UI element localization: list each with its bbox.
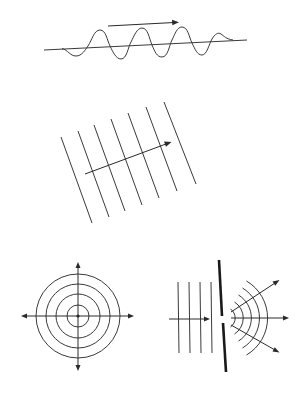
arrowhead-icon bbox=[172, 20, 179, 26]
incident-wavefront bbox=[200, 282, 201, 353]
wavefront-line bbox=[61, 137, 92, 223]
single-slit-diffraction-panel bbox=[169, 260, 289, 372]
sine-wave bbox=[62, 27, 233, 59]
propagation-arrow bbox=[85, 144, 166, 174]
wavefront-line bbox=[78, 131, 109, 217]
arrowhead-up-icon bbox=[76, 262, 81, 268]
arrowhead-icon bbox=[283, 316, 289, 321]
wave-axis-line bbox=[44, 40, 247, 50]
arrowhead-icon bbox=[164, 142, 172, 147]
wave-diagram bbox=[0, 0, 304, 396]
spherical-wavefronts-panel bbox=[21, 262, 134, 371]
barrier-upper bbox=[219, 260, 222, 316]
wavefront-line bbox=[94, 125, 125, 211]
transverse-wave-panel bbox=[44, 20, 247, 59]
arrowhead-icon bbox=[273, 347, 280, 352]
wavefront-line bbox=[111, 119, 142, 205]
incident-wavefront bbox=[178, 282, 179, 353]
arrowhead-icon bbox=[273, 280, 280, 286]
incident-wavefront bbox=[211, 282, 212, 353]
arrowhead-right-icon bbox=[128, 314, 134, 319]
diffracted-arrow-down bbox=[231, 325, 275, 350]
diffracted-arrow-up bbox=[231, 283, 275, 312]
arrowhead-down-icon bbox=[76, 365, 81, 371]
arrowhead-left-icon bbox=[21, 314, 27, 319]
arrowhead-icon bbox=[204, 317, 210, 322]
wave-direction-arrow bbox=[108, 23, 174, 27]
barrier-lower bbox=[223, 323, 226, 372]
wavefront-line bbox=[146, 107, 177, 191]
incident-wavefront bbox=[189, 282, 190, 353]
wavefront-line bbox=[128, 113, 159, 198]
plane-wavefronts-panel bbox=[61, 102, 196, 223]
